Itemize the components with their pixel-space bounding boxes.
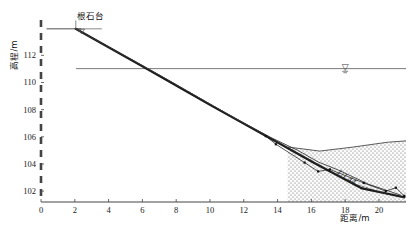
data-point-marker	[395, 187, 397, 189]
y-axis-title: 高程/m	[9, 40, 19, 69]
data-point-marker	[304, 162, 306, 164]
y-tick-label: 104	[23, 159, 37, 169]
data-point-marker	[275, 143, 277, 145]
y-tick-label: 102	[23, 186, 36, 196]
y-tick-label: 112	[24, 50, 36, 60]
data-point-marker	[329, 168, 331, 170]
y-tick-label: 108	[23, 105, 36, 115]
x-tick-label: 6	[140, 205, 144, 215]
cross-section-plot: 02468101214161820102104106108110112 距离/m…	[0, 0, 409, 235]
water-level-symbol: ▽	[342, 62, 349, 72]
x-tick-label: 2	[73, 205, 77, 215]
x-tick-label: 14	[273, 205, 282, 215]
data-point-marker	[317, 170, 319, 172]
x-tick-label: 12	[240, 205, 249, 215]
x-axis-title: 距离/m	[340, 213, 369, 223]
engineering-cross-section-figure: 02468101214161820102104106108110112 距离/m…	[0, 0, 409, 235]
x-tick-label: 8	[174, 205, 178, 215]
x-tick-label: 10	[206, 205, 215, 215]
x-tick-label: 16	[307, 205, 316, 215]
data-point-marker	[363, 182, 365, 184]
x-tick-label: 0	[39, 205, 43, 215]
data-point-marker	[403, 195, 405, 197]
y-tick-label: 106	[23, 132, 36, 142]
y-tick-label: 110	[24, 77, 36, 87]
data-point-marker	[385, 190, 387, 192]
x-tick-label: 20	[375, 205, 384, 215]
data-point-marker	[265, 135, 267, 137]
x-tick-label: 4	[106, 205, 111, 215]
stone-platform-label: 根石台	[77, 11, 104, 21]
